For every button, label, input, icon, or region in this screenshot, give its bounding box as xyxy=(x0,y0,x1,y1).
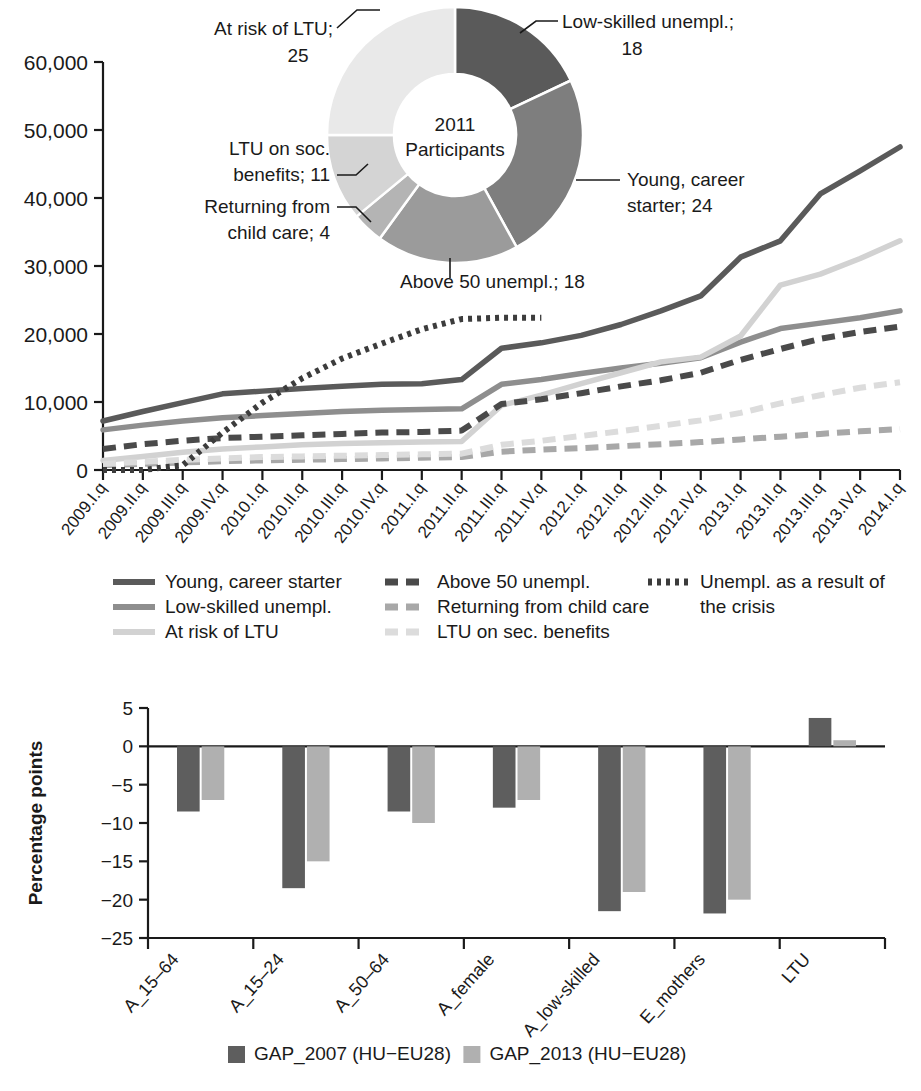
donut-leader-at-risk xyxy=(337,10,380,28)
donut-center-caption: Participants xyxy=(405,139,504,160)
bar-axis-title: Percentage points xyxy=(25,741,46,906)
line-series-1 xyxy=(103,311,900,430)
donut-annotation-ltu-soc: LTU on soc. xyxy=(229,138,330,159)
bar-category-label: A_15–24 xyxy=(225,949,289,1017)
bar-y-tick-label: 5 xyxy=(122,698,133,719)
legend-label-4[interactable]: Returning from child care xyxy=(437,596,649,617)
bar-E_mothers-series0[interactable] xyxy=(703,746,726,913)
line-series-3 xyxy=(103,327,900,449)
figure-root: 010,00020,00030,00040,00050,00060,000200… xyxy=(0,0,921,1091)
line-y-tick-label: 0 xyxy=(76,459,88,482)
bar-category-label: A_50–64 xyxy=(330,949,394,1017)
bar-A_50_64-series0[interactable] xyxy=(388,746,411,811)
bar-A_low_skilled-series1[interactable] xyxy=(623,746,646,892)
donut-annotation-at-risk-value: 25 xyxy=(287,45,308,66)
bar-y-tick-label: −5 xyxy=(111,775,133,796)
bar-y-tick-label: −15 xyxy=(101,851,133,872)
bar-A_15_64-series0[interactable] xyxy=(177,746,200,811)
line-y-tick-label: 20,000 xyxy=(24,323,88,346)
bar-A_female-series1[interactable] xyxy=(518,746,541,800)
bar-y-tick-label: −25 xyxy=(101,928,133,949)
legend-label-1[interactable]: Low-skilled unempl. xyxy=(165,596,332,617)
donut-annotation-ltu-soc-line2: benefits; 11 xyxy=(233,164,330,185)
bar-category-label: LTU xyxy=(778,949,815,987)
bar-legend-label-1[interactable]: GAP_2013 (HU−EU28) xyxy=(489,1043,686,1065)
legend-label-6[interactable]: Unempl. as a result of xyxy=(700,571,886,592)
bar-A_50_64-series1[interactable] xyxy=(412,746,435,823)
bar-y-tick-label: −10 xyxy=(101,813,133,834)
legend-label-0[interactable]: Young, career starter xyxy=(165,571,342,592)
line-chart-legend: Young, career starterLow-skilled unempl.… xyxy=(113,571,886,642)
line-y-tick-label: 50,000 xyxy=(24,119,88,142)
line-y-tick-label: 30,000 xyxy=(24,255,88,278)
bar-legend-swatch-0 xyxy=(228,1046,245,1063)
donut-annotation-low-skilled-value: 18 xyxy=(621,38,642,59)
bar-legend-label-0[interactable]: GAP_2007 (HU−EU28) xyxy=(254,1043,451,1065)
bar-legend-swatch-1 xyxy=(463,1046,480,1063)
bar-category-label: A_low-skilled xyxy=(519,949,605,1041)
bar-A_15_24-series1[interactable] xyxy=(307,746,330,861)
bar-y-tick-label: −20 xyxy=(101,890,133,911)
line-y-tick-label: 10,000 xyxy=(24,391,88,414)
line-series-6 xyxy=(103,318,541,470)
legend-label-6-line2[interactable]: the crisis xyxy=(700,596,775,617)
donut-annotation-young-line2: starter; 24 xyxy=(627,195,713,216)
donut-annotation-above50: Above 50 unempl.; 18 xyxy=(400,271,585,292)
legend-label-2[interactable]: At risk of LTU xyxy=(165,621,279,642)
bar-category-label: E_mothers xyxy=(636,949,710,1028)
donut-chart: 2011ParticipantsAt risk of LTU;25Low-ski… xyxy=(204,7,745,292)
legend-label-5[interactable]: LTU on sec. benefits xyxy=(437,621,610,642)
bar-plot-area: 50−5−10−15−20−25A_15–64A_15–24A_50–64A_f… xyxy=(25,698,885,1041)
donut-annotation-returning-line2: child care; 4 xyxy=(228,222,331,243)
line-chart: 010,00020,00030,00040,00050,00060,000200… xyxy=(0,0,921,660)
donut-annotation-returning: Returning from xyxy=(204,196,330,217)
bar-chart: 50−5−10−15−20−25A_15–64A_15–24A_50–64A_f… xyxy=(0,660,921,1091)
line-y-tick-label: 60,000 xyxy=(24,51,88,74)
bar-A_low_skilled-series0[interactable] xyxy=(598,746,621,911)
bar-A_15_24-series0[interactable] xyxy=(282,746,305,888)
donut-annotation-low-skilled: Low-skilled unempl.; xyxy=(562,11,734,32)
donut-annotation-at-risk: At risk of LTU; xyxy=(214,18,333,39)
donut-annotation-young: Young, career xyxy=(627,169,745,190)
donut-center-year: 2011 xyxy=(435,114,476,135)
bar-LTU-series0[interactable] xyxy=(809,718,832,746)
bar-A_15_64-series1[interactable] xyxy=(202,746,225,800)
bar-category-label: A_female xyxy=(433,949,499,1020)
legend-label-3[interactable]: Above 50 unempl. xyxy=(437,571,590,592)
bar-y-tick-label: 0 xyxy=(122,736,133,757)
bar-A_female-series0[interactable] xyxy=(493,746,516,807)
bar-category-label: A_15–64 xyxy=(119,949,183,1017)
bar-E_mothers-series1[interactable] xyxy=(728,746,751,899)
line-y-tick-label: 40,000 xyxy=(24,187,88,210)
bar-chart-legend: GAP_2007 (HU−EU28)GAP_2013 (HU−EU28) xyxy=(228,1043,686,1065)
bar-LTU-series1[interactable] xyxy=(833,740,856,746)
